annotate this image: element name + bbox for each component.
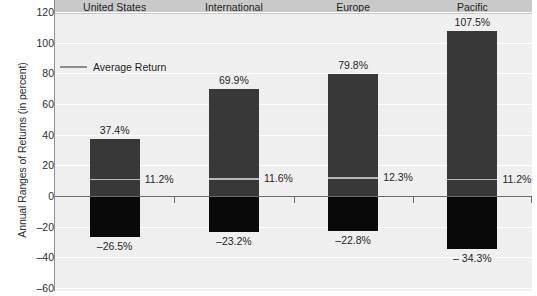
legend: Average Return bbox=[60, 61, 166, 73]
value-label-average-pacific: 11.2% bbox=[502, 173, 531, 185]
average-return-legend-icon bbox=[60, 66, 87, 68]
average-return-line-pacific bbox=[447, 179, 497, 181]
y-tick-label: –60 bbox=[20, 282, 54, 294]
bar-group-pacific: 107.5%– 34.3%11.2% bbox=[55, 0, 532, 291]
y-tick-label: 120 bbox=[20, 6, 54, 18]
returns-range-chart: Annual Ranges of Returns (in percent) 12… bbox=[0, 0, 537, 296]
y-tick-label: –20 bbox=[20, 221, 54, 233]
y-tick-label: –40 bbox=[20, 251, 54, 263]
plot-area: United StatesInternationalEuropePacific … bbox=[55, 0, 532, 291]
y-tick-label: 60 bbox=[20, 98, 54, 110]
y-tick-label: 20 bbox=[20, 159, 54, 171]
category-boundary-tick bbox=[413, 196, 414, 203]
bar-low-pacific bbox=[447, 196, 497, 249]
y-tick-label: 100 bbox=[20, 37, 54, 49]
y-tick-label: 0 bbox=[20, 190, 54, 202]
category-boundary-tick bbox=[294, 196, 295, 203]
y-tick-label: 40 bbox=[20, 129, 54, 141]
bars-layer: 37.4%–26.5%11.2%69.9%–23.2%11.6%79.8%–22… bbox=[55, 0, 532, 291]
legend-label-average-return: Average Return bbox=[93, 61, 166, 73]
y-axis-ticks: 120100806040200–20–40–60 bbox=[10, 0, 54, 296]
y-tick-label: 80 bbox=[20, 67, 54, 79]
value-label-low-pacific: – 34.3% bbox=[432, 252, 512, 264]
category-boundary-tick bbox=[174, 196, 175, 203]
value-label-high-pacific: 107.5% bbox=[432, 16, 512, 28]
bar-high-pacific bbox=[447, 31, 497, 196]
category-boundary-tick bbox=[531, 196, 532, 203]
